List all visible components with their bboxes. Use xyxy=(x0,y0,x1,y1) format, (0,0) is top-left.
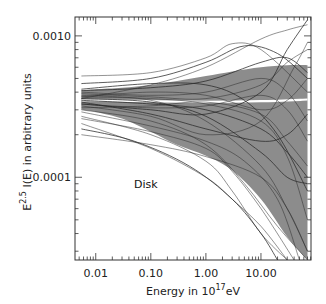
chart: 0.010.101.0010.00 0.00010.0010 Disk Ener… xyxy=(0,0,326,304)
x-axis-title: Energy in 1017eV xyxy=(146,283,240,298)
x-tick-labels: 0.010.101.0010.00 xyxy=(83,267,276,280)
disk-annotation: Disk xyxy=(134,178,158,191)
x-tick-label: 0.01 xyxy=(83,267,108,280)
x-tick-label: 0.10 xyxy=(139,267,164,280)
y-tick-label: 0.0010 xyxy=(33,30,72,43)
y-tick-label: 0.0001 xyxy=(33,171,72,184)
x-tick-label: 10.00 xyxy=(245,267,277,280)
x-tick-label: 1.00 xyxy=(194,267,219,280)
y-tick-labels: 0.00010.0010 xyxy=(33,30,72,184)
y-axis-title: E2.5 I(E) in arbitrary units xyxy=(19,73,34,211)
